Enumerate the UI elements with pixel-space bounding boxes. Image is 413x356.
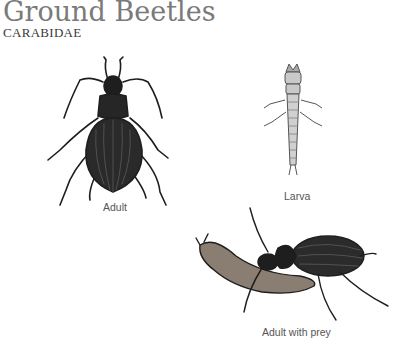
caption-adult-with-prey: Adult with prey <box>262 326 331 338</box>
illustrations <box>0 0 413 356</box>
larva-illustration <box>264 64 322 175</box>
caption-adult: Adult <box>103 201 127 213</box>
adult-with-prey-illustration <box>196 208 388 320</box>
adult-beetle-illustration <box>48 57 168 205</box>
caption-larva: Larva <box>284 190 310 202</box>
